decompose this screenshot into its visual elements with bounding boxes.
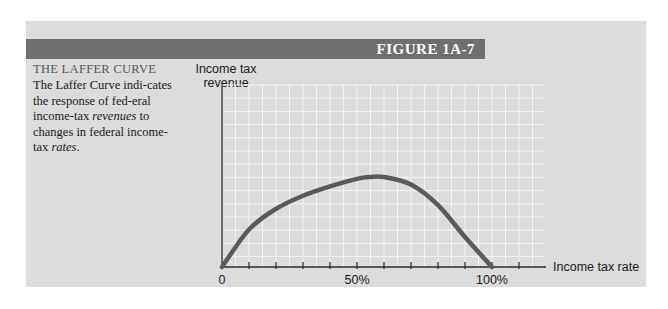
x-tick-label-50: 50%: [344, 273, 369, 287]
x-tick-label-0: 0: [219, 273, 226, 287]
x-axis-label: Income tax rate: [553, 260, 639, 274]
x-tick-label-100: 100%: [476, 273, 508, 287]
